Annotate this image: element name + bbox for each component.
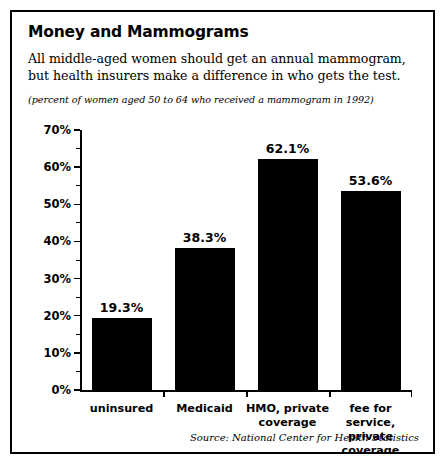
x-axis-label-line: uninsured	[90, 402, 153, 415]
y-axis-tick-label: 40%	[43, 234, 71, 248]
x-axis-label-line: HMO, private	[246, 402, 329, 415]
plot-wrapper: 0%10%20%30%40%50%60%70% 19.3%38.3%62.1%5…	[12, 12, 435, 454]
y-axis-tick	[74, 241, 80, 243]
x-axis-label-line: fee for service,	[346, 402, 395, 429]
y-axis-tick-label: 10%	[43, 346, 71, 360]
bar-value-label: 62.1%	[266, 141, 309, 156]
y-axis-tick-label: 70%	[43, 123, 71, 137]
y-axis-tick	[74, 389, 80, 391]
y-axis-minor-tick	[76, 148, 80, 149]
y-axis-tick	[74, 278, 80, 280]
y-axis-tick-label: 50%	[43, 197, 71, 211]
y-axis-line	[80, 130, 82, 390]
x-axis-category-label: fee for service,private coverage	[324, 402, 417, 454]
y-axis-tick	[74, 315, 80, 317]
bar	[92, 318, 152, 390]
x-axis-label-line: Medicaid	[176, 402, 233, 415]
y-axis-tick	[74, 166, 80, 168]
y-axis-tick	[74, 352, 80, 354]
y-axis-tick	[74, 204, 80, 206]
y-axis-tick-label: 20%	[43, 309, 71, 323]
x-axis-tick	[329, 390, 331, 397]
chart-figure: Money and Mammograms All middle-aged wom…	[10, 10, 435, 454]
y-axis-minor-tick	[76, 297, 80, 298]
bar-value-label: 19.3%	[100, 300, 143, 315]
x-axis-tick	[246, 390, 248, 397]
x-axis-category-label: uninsured	[75, 402, 168, 416]
y-axis-minor-tick	[76, 185, 80, 186]
bar	[175, 248, 235, 390]
x-axis-tick	[411, 390, 413, 397]
bar	[258, 159, 318, 390]
y-axis-tick-label: 60%	[43, 160, 71, 174]
plot-area: 0%10%20%30%40%50%60%70% 19.3%38.3%62.1%5…	[80, 130, 412, 390]
x-axis-category-label: HMO, privatecoverage	[241, 402, 334, 430]
y-axis-tick	[74, 129, 80, 131]
bar	[341, 191, 401, 390]
x-axis-category-label: Medicaid	[158, 402, 251, 416]
bar-value-label: 38.3%	[183, 230, 226, 245]
bar-value-label: 53.6%	[349, 173, 392, 188]
y-axis-tick-label: 0%	[51, 383, 71, 397]
y-axis-tick-label: 30%	[43, 272, 71, 286]
y-axis-minor-tick	[76, 334, 80, 335]
y-axis-minor-tick	[76, 222, 80, 223]
y-axis-minor-tick	[76, 371, 80, 372]
x-axis-label-line: coverage	[259, 416, 317, 429]
source-note: Source: National Center for Health Stati…	[190, 432, 419, 443]
x-axis-tick	[163, 390, 165, 397]
y-axis-minor-tick	[76, 260, 80, 261]
